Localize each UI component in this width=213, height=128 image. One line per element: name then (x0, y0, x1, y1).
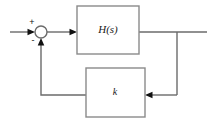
error-arrowhead (70, 29, 78, 36)
feedback-return-arrowhead (38, 38, 45, 46)
forward-block-label: H(s) (97, 23, 118, 36)
summing-junction-circle (35, 26, 47, 38)
summing-junction (35, 26, 47, 38)
block-diagram-canvas: H(s) k + - (0, 0, 213, 128)
plus-sign-label: + (29, 17, 34, 27)
feedback-block-label: k (113, 86, 118, 97)
input-arrowhead (28, 29, 36, 36)
block-diagram-figure: H(s) k + - (0, 0, 213, 128)
minus-sign-label: - (32, 35, 35, 45)
feedback-into-gain-arrowhead (145, 92, 153, 99)
